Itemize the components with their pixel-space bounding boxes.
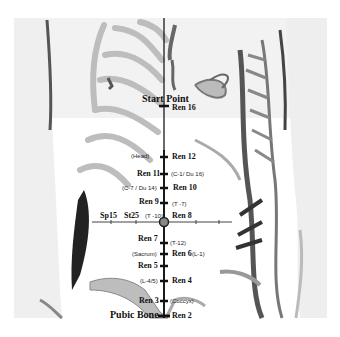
ren7-label: Ren 7 [138,235,158,243]
anatomy-illustration [0,0,340,337]
c7-du14-note: (C-7 / Du 14) [122,185,157,191]
sp15-label: Sp15 [100,212,117,220]
right-body-edge [286,18,327,318]
left-muscle [71,190,88,290]
ren4-label: Ren 4 [172,277,192,285]
ren9-label: Ren 9 [139,198,159,206]
ren10-label: Ren 10 [173,184,197,192]
l1-note: (L-1) [192,251,205,257]
ren5-label: Ren 5 [138,262,158,270]
ren16-label: Ren 16 [172,104,196,112]
t7-note: (T -7) [172,201,187,207]
sacrum-note: (Sacrum) [132,251,157,257]
pubic-bone-label: Pubic Bone [110,310,159,320]
ren11-label: Ren 11 [137,170,160,178]
t12-note: (T-12) [170,240,186,246]
ren3-label: Ren 3 [139,297,159,305]
ren6-label: Ren 6 [172,250,192,258]
l45-note: (L-4/5) [140,278,158,284]
st25-label: St25 [124,212,139,220]
ren8-label: Ren 8 [172,212,192,220]
anatomy-diagram: Start Point Ren 16 (Head) Ren 12 Ren 11 … [0,0,340,337]
c1-du16-note: (C-1/ Du 16) [171,171,204,177]
head-note: (Head) [131,153,149,159]
ren12-label: Ren 12 [172,153,196,161]
coccyx-note: (Coccyx) [170,298,194,304]
t10-note: (T -10) [145,213,163,219]
ren2-label: Ren 2 [172,312,192,320]
